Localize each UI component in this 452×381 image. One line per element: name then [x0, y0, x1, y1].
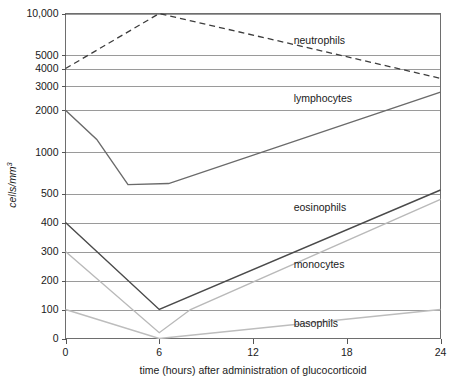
y-tick-label-200: 200	[41, 274, 59, 286]
data-series	[66, 14, 441, 339]
series-label-monocytes: monocytes	[294, 258, 345, 270]
line-chart: 10,0005000400030002000100050040030020010…	[0, 0, 452, 381]
series-label-neutrophils: neutrophils	[294, 34, 345, 46]
series-line-eosinophils	[66, 190, 441, 310]
series-line-neutrophils	[66, 14, 441, 79]
x-tick-label-24: 24	[435, 346, 447, 358]
y-tick-label-300: 300	[41, 245, 59, 257]
x-tick-label-12: 12	[247, 346, 259, 358]
x-tick-label-18: 18	[341, 346, 353, 358]
y-tick-label-1000: 1000	[35, 146, 59, 158]
y-axis-title-main: cells/mm	[6, 166, 18, 208]
y-tick-label-2000: 2000	[35, 104, 59, 116]
series-labels: neutrophilslymphocyteseosinophilsmonocyt…	[294, 34, 352, 329]
y-tick-label-100: 100	[41, 303, 59, 315]
series-line-basophils	[66, 310, 441, 339]
series-label-basophils: basophils	[294, 317, 338, 329]
y-axis-tick-labels: 10,0005000400030002000100050040030020010…	[26, 7, 58, 344]
y-tick-label-4000: 4000	[35, 62, 59, 74]
series-line-lymphocytes	[66, 92, 441, 184]
chart-container: 10,0005000400030002000100050040030020010…	[0, 0, 452, 381]
y-axis-title-superscript: 3	[5, 161, 14, 166]
series-line-monocytes	[66, 199, 441, 332]
y-tick-label-400: 400	[41, 216, 59, 228]
axis-tickmarks	[62, 15, 442, 344]
series-label-lymphocytes: lymphocytes	[294, 92, 352, 104]
y-axis-title: cells/mm3	[5, 161, 19, 207]
x-tick-label-6: 6	[156, 346, 162, 358]
x-axis-title: time (hours) after administration of glu…	[139, 364, 366, 376]
x-tick-label-0: 0	[63, 346, 69, 358]
y-tick-label-10000: 10,000	[26, 7, 58, 19]
y-tick-label-0: 0	[53, 332, 59, 344]
y-tick-label-5000: 5000	[35, 49, 59, 61]
y-tick-label-3000: 3000	[35, 80, 59, 92]
y-tick-label-500: 500	[41, 187, 59, 199]
x-axis-tick-labels: 06121824	[63, 346, 447, 358]
series-label-eosinophils: eosinophils	[294, 201, 347, 213]
gridlines	[66, 15, 441, 311]
